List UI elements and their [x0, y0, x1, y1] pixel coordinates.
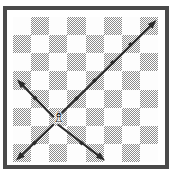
board-square [49, 144, 67, 162]
board-square [104, 126, 122, 144]
bishop-piece: ♗ [49, 108, 67, 126]
chess-diagram-figure: Chess diagram: a bishop on a dithered ei… [0, 0, 174, 175]
board-square [104, 71, 122, 89]
board-square [86, 71, 104, 89]
board-square [67, 17, 85, 35]
board-square [31, 17, 49, 35]
board-square [86, 144, 104, 162]
board-square [67, 126, 85, 144]
board-square [49, 35, 67, 53]
board-square [67, 53, 85, 71]
board-square [140, 17, 158, 35]
board-square [49, 126, 67, 144]
board-square [140, 53, 158, 71]
board-square [13, 35, 31, 53]
board-square [31, 35, 49, 53]
board-square [13, 108, 31, 126]
board-square [104, 35, 122, 53]
board-square [31, 90, 49, 108]
board-square [31, 71, 49, 89]
board-square [122, 53, 140, 71]
board-square [13, 90, 31, 108]
board-square [67, 90, 85, 108]
board-square [122, 126, 140, 144]
board-square [122, 108, 140, 126]
board-square [104, 144, 122, 162]
board-square [86, 53, 104, 71]
board-square [13, 126, 31, 144]
board-square [140, 126, 158, 144]
board-square [13, 144, 31, 162]
board-square [140, 90, 158, 108]
board-square [140, 108, 158, 126]
board-square [122, 71, 140, 89]
board-square [67, 35, 85, 53]
board-square [86, 35, 104, 53]
board-square [13, 17, 31, 35]
board-square [49, 90, 67, 108]
board-square [86, 17, 104, 35]
board-square [31, 126, 49, 144]
board-square [122, 90, 140, 108]
board-square [49, 17, 67, 35]
board-square [86, 126, 104, 144]
board-square [31, 144, 49, 162]
board-square [67, 108, 85, 126]
board-square [67, 71, 85, 89]
board-square [86, 108, 104, 126]
board-square [140, 71, 158, 89]
board-square [67, 144, 85, 162]
board-square [104, 108, 122, 126]
board-square [104, 17, 122, 35]
board-square [31, 53, 49, 71]
board-square [86, 90, 104, 108]
board-square: ♗ [49, 108, 67, 126]
board-square [140, 35, 158, 53]
board-square [13, 53, 31, 71]
board-square [49, 53, 67, 71]
board-square [13, 71, 31, 89]
board-square [49, 71, 67, 89]
board-square [31, 108, 49, 126]
bishop-icon: ♗ [52, 109, 65, 124]
board-square [122, 35, 140, 53]
board-square [104, 90, 122, 108]
board-square [104, 53, 122, 71]
board-square [122, 17, 140, 35]
board-square [122, 144, 140, 162]
figure-alt-text: Chess diagram: a bishop on a dithered ei… [0, 0, 1, 1]
chessboard: ♗ [13, 17, 158, 162]
board-square [140, 144, 158, 162]
